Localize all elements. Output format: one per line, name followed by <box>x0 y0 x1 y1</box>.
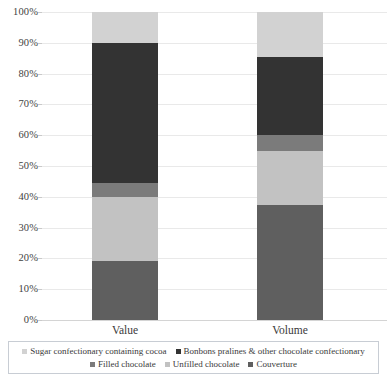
stacked-bar-chart: 0%10%20%30%40%50%60%70%80%90%100% ValueV… <box>0 0 391 383</box>
bar-group[interactable]: Value <box>92 12 158 320</box>
bar-segment[interactable] <box>92 183 158 197</box>
bar-segment[interactable] <box>92 261 158 320</box>
legend-swatch-icon <box>165 362 170 367</box>
legend-swatch-icon <box>176 349 181 354</box>
legend-swatch-icon <box>22 349 27 354</box>
bar-segment[interactable] <box>92 43 158 183</box>
bar-group[interactable]: Volume <box>257 12 323 320</box>
legend-swatch-icon <box>248 362 253 367</box>
legend-label: Couverture <box>256 359 297 370</box>
legend-item[interactable]: Unfilled chocolate <box>165 359 240 370</box>
legend-swatch-icon <box>90 362 95 367</box>
plot-area: 0%10%20%30%40%50%60%70%80%90%100% ValueV… <box>0 0 391 338</box>
bar-segment[interactable] <box>257 135 323 150</box>
legend-label: Unfilled chocolate <box>173 359 240 370</box>
x-axis-label: Value <box>112 323 138 337</box>
x-axis-label: Volume <box>272 323 308 337</box>
legend-item[interactable]: Bonbons pralines & other chocolate confe… <box>176 346 365 357</box>
bar-segment[interactable] <box>92 12 158 43</box>
legend-item[interactable]: Sugar confectionary containing cocoa <box>22 346 166 357</box>
stacked-bar[interactable] <box>92 12 158 320</box>
bar-segment[interactable] <box>92 197 158 262</box>
legend-label: Filled chocolate <box>98 359 156 370</box>
bar-segment[interactable] <box>257 57 323 136</box>
legend-item[interactable]: Couverture <box>248 359 297 370</box>
bar-segment[interactable] <box>257 205 323 321</box>
legend-row: Filled chocolateUnfilled chocolateCouver… <box>13 358 374 371</box>
bar-segment[interactable] <box>257 12 323 57</box>
bars-layer: ValueVolume <box>0 0 391 338</box>
legend-label: Sugar confectionary containing cocoa <box>30 346 166 357</box>
legend: Sugar confectionary containing cocoaBonb… <box>8 341 379 374</box>
legend-row: Sugar confectionary containing cocoaBonb… <box>13 345 374 358</box>
legend-item[interactable]: Filled chocolate <box>90 359 156 370</box>
bar-segment[interactable] <box>257 151 323 205</box>
stacked-bar[interactable] <box>257 12 323 320</box>
legend-label: Bonbons pralines & other chocolate confe… <box>184 346 365 357</box>
